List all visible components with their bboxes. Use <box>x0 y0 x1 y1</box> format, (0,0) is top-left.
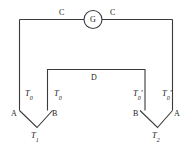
thermocouple-circuit-diagram: G C C D T0 T0 A B T1 T0′ T0′ B A T2 <box>0 0 192 152</box>
conductor-label-a-left: A <box>11 110 17 118</box>
wire-label-d: D <box>91 74 97 82</box>
temperature-label-left-outer: T0 <box>25 89 33 98</box>
temperature-left-inner-subscript: 0 <box>59 95 62 101</box>
temperature-label-t1: T1 <box>31 131 39 140</box>
temperature-right-outer-prime: ′ <box>170 88 172 98</box>
temperature-t1-subscript: 1 <box>36 137 39 143</box>
temperature-right-inner-prime: ′ <box>141 88 143 98</box>
temperature-label-t2: T2 <box>152 131 160 140</box>
conductor-label-b-left: B <box>52 110 57 118</box>
junction-left-vee <box>20 111 53 128</box>
junction-right-vee <box>140 111 173 128</box>
galvanometer-symbol: G <box>89 16 97 24</box>
temperature-label-right-outer: T0′ <box>162 89 172 98</box>
temperature-label-right-inner: T0′ <box>133 89 143 98</box>
conductor-label-a-right: A <box>174 110 180 118</box>
temperature-left-outer-subscript: 0 <box>30 95 33 101</box>
conductor-label-b-right: B <box>133 110 138 118</box>
wire-label-c-right: C <box>110 9 115 17</box>
wire-label-c-left: C <box>59 9 64 17</box>
temperature-label-left-inner: T0 <box>54 89 62 98</box>
temperature-right-outer-subscript: 0 <box>167 95 170 101</box>
temperature-right-inner-subscript: 0 <box>138 95 141 101</box>
temperature-t2-subscript: 2 <box>157 137 160 143</box>
